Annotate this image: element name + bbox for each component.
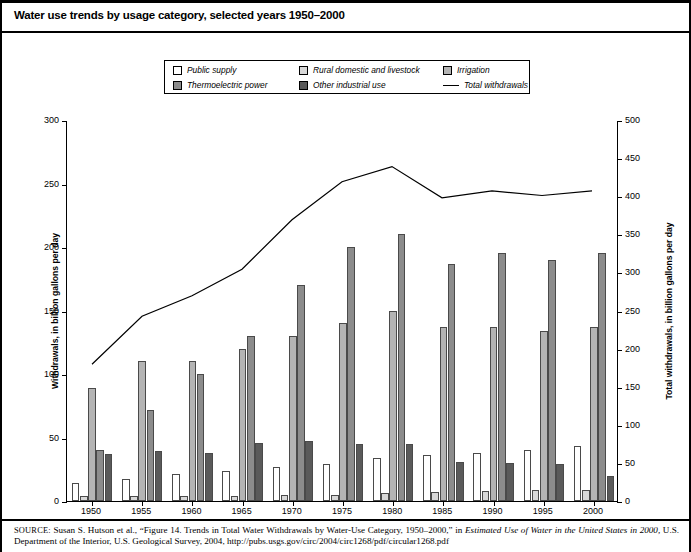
title-underline-rule	[0, 31, 691, 33]
bar	[339, 323, 347, 501]
y-axis-right-tick	[617, 121, 622, 122]
y-axis-left-tick	[62, 439, 67, 440]
x-axis-tick-label: 1970	[282, 506, 302, 516]
source-note: SOURCE: Susan S. Hutson et al., “Figure …	[14, 525, 679, 547]
bar	[189, 361, 197, 501]
x-axis-tick-label: 1965	[232, 506, 252, 516]
bar	[205, 453, 213, 501]
bar	[490, 327, 498, 501]
bar	[88, 388, 96, 501]
bar	[498, 253, 506, 501]
legend-line-total-withdrawals	[443, 85, 459, 86]
x-axis-tick-label: 1995	[533, 506, 553, 516]
bar	[281, 495, 289, 501]
y-axis-right-tick	[617, 235, 622, 236]
y-axis-left-tick	[62, 248, 67, 249]
bar	[482, 491, 490, 501]
bar	[105, 454, 113, 501]
bar	[273, 467, 281, 501]
legend-label: Irrigation	[457, 65, 490, 75]
bar	[582, 490, 590, 501]
y-axis-left-tick	[62, 312, 67, 313]
source-separator-rule	[0, 519, 691, 521]
y-axis-left-tick-label: 0	[54, 496, 59, 506]
bar	[323, 464, 331, 501]
x-axis-tick-label: 1950	[81, 506, 101, 516]
bar	[80, 496, 88, 501]
bar	[590, 327, 598, 501]
legend-label: Other industrial use	[313, 80, 386, 90]
bar	[138, 361, 146, 501]
y-axis-right-tick-label: 100	[625, 420, 640, 430]
bar	[197, 374, 205, 501]
bar	[180, 496, 188, 501]
bar	[96, 450, 104, 501]
y-axis-right-tick	[617, 312, 622, 313]
plot-area: Withdrawals, in billion gallons per day …	[66, 121, 618, 502]
chart-legend: Public supplyRural domestic and livestoc…	[164, 60, 530, 94]
legend-item[interactable]: Rural domestic and livestock	[299, 65, 420, 75]
y-axis-left-tick-label: 50	[49, 433, 59, 443]
y-axis-right-title: Total withdrawals, in billion gallons pe…	[664, 223, 674, 400]
bar	[373, 458, 381, 501]
bar	[448, 264, 456, 501]
bar	[431, 492, 439, 501]
bar	[574, 446, 582, 501]
bar	[556, 464, 564, 501]
legend-item[interactable]: Other industrial use	[299, 80, 386, 90]
bar	[289, 336, 297, 501]
y-axis-right-tick-label: 450	[625, 153, 640, 163]
source-title-part2: United States in 2000,	[578, 525, 660, 535]
y-axis-right-tick-label: 300	[625, 267, 640, 277]
x-axis-tick-label: 1985	[432, 506, 452, 516]
bar	[356, 444, 364, 501]
y-axis-left-tick	[62, 185, 67, 186]
bar	[473, 453, 481, 501]
bar	[331, 495, 339, 501]
bar	[423, 455, 431, 501]
legend-item[interactable]: Thermoelectric power	[173, 80, 268, 90]
bar	[440, 327, 448, 501]
bar	[247, 336, 255, 501]
source-text-a: Susan S. Hutson et al., “Figure 14. Tren…	[51, 525, 465, 535]
legend-swatch-irrigation	[443, 66, 452, 75]
y-axis-right-tick	[617, 197, 622, 198]
legend-swatch-rural-domestic	[299, 66, 308, 75]
y-axis-right-tick-label: 0	[625, 496, 630, 506]
y-axis-right-tick-label: 250	[625, 306, 640, 316]
x-axis-tick-label: 1960	[181, 506, 201, 516]
legend-item[interactable]: Public supply	[173, 65, 236, 75]
legend-item[interactable]: Irrigation	[443, 65, 490, 75]
bar	[347, 247, 355, 501]
y-axis-right-tick-label: 500	[625, 115, 640, 125]
legend-item[interactable]: Total withdrawals	[443, 80, 528, 90]
y-axis-left-tick-label: 150	[44, 306, 59, 316]
y-axis-left-tick	[62, 375, 67, 376]
y-axis-left-tick-label: 250	[44, 179, 59, 189]
y-axis-right-tick-label: 150	[625, 382, 640, 392]
bar	[524, 450, 532, 501]
bar	[231, 496, 239, 501]
x-axis-tick-label: 1955	[131, 506, 151, 516]
bar	[255, 443, 263, 501]
x-axis-tick-label: 2000	[583, 506, 603, 516]
bar	[130, 496, 138, 501]
bar	[122, 479, 130, 501]
legend-swatch-public-supply	[173, 66, 182, 75]
x-axis-tick-label: 1980	[382, 506, 402, 516]
bar	[540, 331, 548, 501]
left-rule	[0, 0, 2, 552]
y-axis-left-tick-label: 100	[44, 369, 59, 379]
y-axis-left-tick-label: 300	[44, 115, 59, 125]
y-axis-right-tick	[617, 159, 622, 160]
bar	[506, 463, 514, 501]
figure-panel: Water use trends by usage category, sele…	[0, 0, 691, 552]
y-axis-left-tick	[62, 121, 67, 122]
y-axis-right-tick-label: 400	[625, 191, 640, 201]
bar	[147, 410, 155, 501]
y-axis-right-tick	[617, 388, 622, 389]
x-axis-tick-label: 1990	[483, 506, 503, 516]
y-axis-right-tick-label: 50	[625, 458, 635, 468]
y-axis-right-tick	[617, 464, 622, 465]
y-axis-right-tick	[617, 502, 622, 503]
